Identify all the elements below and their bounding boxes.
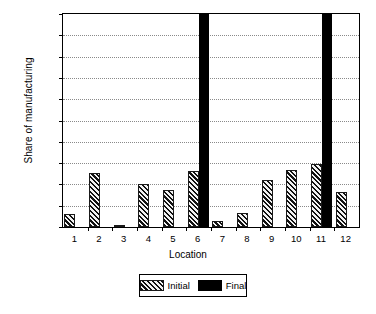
x-tick-mark [236,227,237,231]
bar-initial [336,192,347,227]
legend-swatch-final [198,280,222,291]
bar-initial [64,214,75,227]
legend-entry-initial: Initial [140,280,190,291]
x-tick-mark [112,227,113,231]
y-tick-mark [59,206,63,207]
x-tick-mark [88,227,89,231]
y-tick-mark [59,121,63,122]
y-tick-mark [59,35,63,36]
bar-initial [188,171,199,227]
bar-initial [262,180,273,227]
x-tick-mark [285,227,286,231]
legend-label-final: Final [226,280,247,291]
gridline [63,35,359,36]
y-tick-mark [59,142,63,143]
y-axis-title: Share of manufacturing [23,31,34,191]
chart-legend: Initial Final [139,274,247,297]
bar-initial [237,213,248,227]
gridline [63,99,359,100]
y-tick-mark [59,14,63,15]
x-axis-title: Location [0,249,376,260]
bar-initial [114,225,125,227]
bar-initial [212,221,223,227]
bar-initial [89,173,100,227]
gridline [63,142,359,143]
gridline [63,121,359,122]
bar-initial [163,190,174,227]
plot-inner: 0.000.050.100.150.200.250.300.350.400.45… [63,14,359,227]
x-tick-label: 12 [331,233,361,244]
bar-chart-figure: Share of manufacturing 0.000.050.100.150… [0,0,376,314]
x-tick-mark [162,227,163,231]
y-tick-mark [59,227,63,228]
plot-area: 0.000.050.100.150.200.250.300.350.400.45… [62,13,360,228]
legend-swatch-initial [140,280,164,291]
x-tick-mark [211,227,212,231]
bar-final [322,14,332,227]
y-tick-mark [59,57,63,58]
y-tick-mark [59,184,63,185]
bar-initial [286,170,297,227]
legend-label-initial: Initial [168,280,190,291]
gridline [63,78,359,79]
bar-initial [138,184,149,227]
y-tick-mark [59,99,63,100]
x-tick-mark [334,227,335,231]
x-tick-mark [310,227,311,231]
y-tick-mark [59,163,63,164]
bar-final [199,14,209,227]
y-tick-mark [59,78,63,79]
legend-entry-final: Final [198,280,247,291]
x-tick-mark [186,227,187,231]
bar-initial [311,164,322,227]
x-tick-mark [137,227,138,231]
gridline [63,57,359,58]
x-tick-mark [260,227,261,231]
